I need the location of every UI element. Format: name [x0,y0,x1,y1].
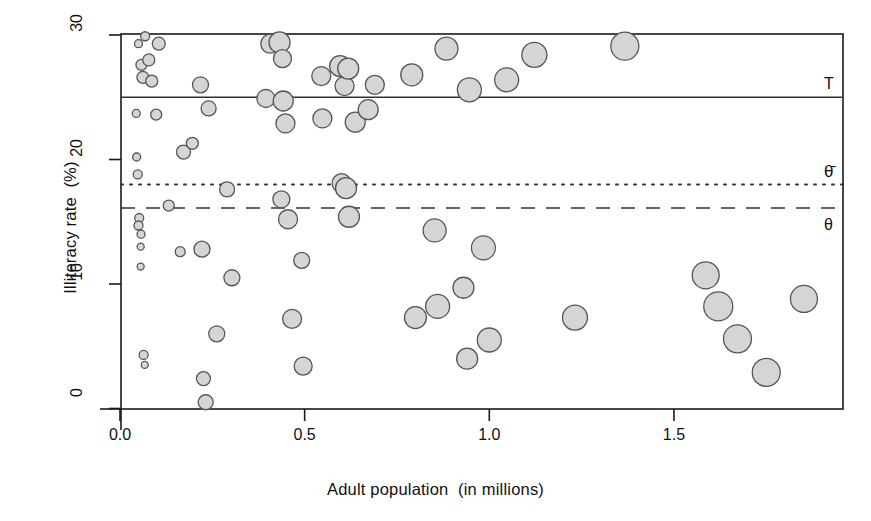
data-point-bubble [220,182,235,197]
x-axis-title: Adult population (in millions) [0,480,871,499]
data-point-bubble [457,78,481,102]
data-point-bubble [457,348,478,369]
x-tick-label: 1.0 [459,426,519,444]
data-point-bubble [257,90,275,108]
data-point-bubble [196,372,210,386]
data-point-bubble [704,292,733,321]
data-point-bubble [134,40,142,48]
data-point-bubble [152,37,165,50]
data-point-bubble [790,285,817,312]
data-point-bubble [132,109,140,117]
data-point-bubble [313,109,332,128]
data-point-bubble [146,75,158,87]
x-tick-label: 0.5 [275,426,335,444]
data-point-bubble [401,64,423,86]
data-point-bubble [137,230,145,238]
data-point-bubble [194,241,210,257]
data-point-bubble [209,326,225,342]
data-point-bubble [692,262,719,289]
data-point-bubble [134,221,143,230]
data-point-bubble [137,243,144,250]
data-point-bubble [141,361,148,368]
data-point-bubble [279,210,298,229]
data-point-bubble [163,200,174,211]
data-point-bubble [611,32,639,60]
reference-label-theta-bar: θ̄ [824,162,833,182]
data-point-bubble [141,32,150,41]
data-point-bubble [273,191,290,208]
data-point-bubble [276,114,295,133]
data-point-bubble [404,307,426,329]
y-tick-label: 10 [68,263,86,303]
data-point-bubble [133,170,142,179]
data-point-bubble [193,77,209,93]
data-point-bubble [723,325,751,353]
data-point-bubble [365,75,384,94]
data-point-bubble [477,328,501,352]
data-point-bubble [151,109,162,120]
data-point-bubble [186,137,198,149]
x-tick-label: 0.0 [90,426,150,444]
axis-ticks [100,35,674,430]
data-point-bubble [336,178,357,199]
y-tick-label: 20 [68,139,86,179]
data-point-bubble [453,277,474,298]
data-point-bubble [283,309,302,328]
data-point-bubble [137,263,144,270]
data-point-bubble [335,77,354,96]
data-point-bubble [294,357,312,375]
data-point-bubble [423,219,446,242]
y-tick-label: 30 [68,14,86,54]
data-point-bubble [273,91,293,111]
data-point-bubble [426,294,450,318]
data-point-bubble [522,42,547,67]
y-axis-title: Illiteracy rate (%) [61,18,80,438]
reference-label-theta: θ [824,216,833,234]
data-point-bubble [435,37,458,60]
data-point-bubble [752,358,780,386]
data-point-bubble [224,270,240,286]
data-point-bubble [338,206,359,227]
data-point-bubble [198,395,213,410]
data-point-bubble [562,305,587,330]
data-point-bubble [139,350,148,359]
data-point-bubble [312,67,331,86]
data-point-bubble [201,101,216,116]
data-point-bubble [358,100,378,120]
data-point-bubble [338,58,359,79]
data-point-bubble [175,247,185,257]
data-point-bubble [495,68,519,92]
data-point-bubble [294,252,310,268]
data-point-bubble [471,236,495,260]
x-tick-label: 1.5 [644,426,704,444]
data-point-bubble [273,50,291,68]
data-point-bubble [143,54,155,66]
y-tick-label: 0 [68,388,86,428]
reference-label-T: T [824,75,834,93]
data-points [132,32,817,410]
data-point-bubble [133,153,141,161]
scatter-plot-figure: Adult population (in millions) Illiterac… [0,0,871,521]
